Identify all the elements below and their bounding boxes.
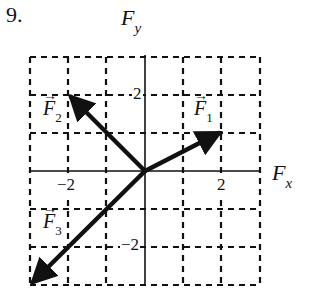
problem-number: 9. xyxy=(6,2,23,28)
tick-y-neg2: −2 xyxy=(120,235,140,255)
y-axis-label: Fy xyxy=(121,5,141,34)
tick-x-neg2: −2 xyxy=(56,175,76,195)
vector-f1-label: →F1 xyxy=(193,97,214,124)
x-axis-label: Fx xyxy=(272,160,292,189)
tick-y-pos2: 2 xyxy=(132,84,143,104)
force-diagram xyxy=(0,0,310,289)
vector-f3-label: →F3 xyxy=(42,210,63,237)
vector-f2-label: →F2 xyxy=(42,97,63,124)
tick-x-pos2: 2 xyxy=(216,175,227,195)
